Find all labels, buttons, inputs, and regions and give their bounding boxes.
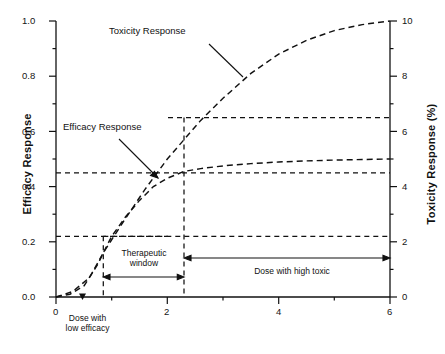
left-axis-title: Efficacy Response — [21, 79, 33, 249]
left-tick-label-3: 0.6 — [22, 126, 35, 137]
low-efficacy-label-line1: Dose with — [50, 313, 125, 323]
toxicity-label-leader — [209, 44, 243, 77]
right-tick-label-2: 4 — [402, 181, 407, 192]
right-axis-title: Toxicity Response (%) — [425, 79, 437, 249]
left-tick-label-2: 0.4 — [22, 181, 35, 192]
right-tick-label-0: 0 — [402, 291, 407, 302]
left-tick-label-4: 0.8 — [22, 70, 35, 81]
efficacy-response-label: Efficacy Response — [63, 122, 142, 132]
right-tick-label-5: 10 — [402, 15, 413, 26]
therapeutic-window-arrow — [103, 274, 184, 279]
therapeutic-window-label-line1: Therapeutic — [104, 248, 184, 258]
left-tick-label-0: 0.0 — [22, 291, 35, 302]
therapeutic-window-label: Therapeutic window — [104, 248, 184, 268]
left-axis-ticks — [49, 21, 56, 297]
bottom-tick-label-1: 2 — [164, 306, 169, 317]
low-efficacy-label-line2: low efficacy — [50, 323, 125, 333]
left-tick-label-1: 0.2 — [22, 236, 35, 247]
bottom-axis-ticks — [56, 297, 390, 304]
toxicity-response-label: Toxicity Response — [109, 26, 186, 36]
right-axis-ticks — [390, 21, 397, 297]
chart-canvas — [0, 0, 445, 354]
right-tick-label-3: 6 — [402, 126, 407, 137]
left-tick-label-5: 1.0 — [22, 15, 35, 26]
bottom-tick-label-2: 4 — [276, 306, 281, 317]
high-toxic-label: Dose with high toxic — [227, 266, 357, 276]
low-efficacy-label: Dose with low efficacy — [50, 313, 125, 333]
therapeutic-window-label-line2: window — [104, 258, 184, 268]
bottom-tick-label-3: 6 — [387, 306, 392, 317]
right-tick-label-4: 8 — [402, 70, 407, 81]
right-tick-label-1: 2 — [402, 236, 407, 247]
efficacy-label-leader — [119, 139, 158, 178]
high-toxic-arrow — [184, 255, 390, 260]
chart-figure: Efficacy Response Toxicity Response (%) … — [0, 0, 445, 354]
